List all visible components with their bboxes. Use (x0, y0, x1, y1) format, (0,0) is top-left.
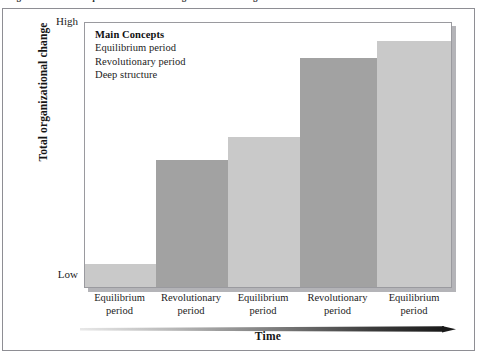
bar-revolutionary-2 (156, 160, 228, 287)
x-axis-label-line: period (299, 305, 376, 318)
x-axis-label-line: period (376, 305, 452, 318)
x-axis-label-5: Equilibriumperiod (376, 292, 452, 318)
x-axis-label-line: period (227, 305, 299, 318)
x-axis-label-line: period (155, 305, 227, 318)
x-axis-title: Time (84, 330, 452, 342)
x-axis-label-1: Equilibriumperiod (84, 292, 155, 318)
x-axis-label-line: period (84, 305, 155, 318)
bar-equilibrium-1 (85, 264, 156, 287)
plot-area: Main Concepts Equilibrium period Revolut… (84, 22, 452, 288)
legend-item-revolutionary: Revolutionary period (95, 55, 186, 68)
x-axis-label-line: Equilibrium (227, 292, 299, 305)
x-axis-label-4: Revolutionaryperiod (299, 292, 376, 318)
x-axis-label-line: Equilibrium (84, 292, 155, 305)
bar-revolutionary-4 (300, 58, 377, 287)
y-axis-tick-high: High (34, 15, 78, 27)
y-axis-tick-low: Low (34, 268, 78, 280)
figure-caption-sliver: Figure Punctuated equilibrium model of o… (0, 0, 479, 6)
x-axis-label-line: Revolutionary (155, 292, 227, 305)
time-arrow-icon (80, 319, 456, 326)
legend-title: Main Concepts (95, 28, 186, 41)
bar-equilibrium-5 (377, 41, 452, 287)
legend: Main Concepts Equilibrium period Revolut… (95, 28, 186, 82)
x-axis-labels: EquilibriumperiodRevolutionaryperiodEqui… (84, 292, 456, 318)
x-axis-label-3: Equilibriumperiod (227, 292, 299, 318)
figure-container: Figure Punctuated equilibrium model of o… (0, 0, 479, 362)
legend-item-equilibrium: Equilibrium period (95, 41, 186, 54)
x-axis-label-line: Equilibrium (376, 292, 452, 305)
plot-shadow-right (452, 26, 456, 292)
x-axis-label-line: Revolutionary (299, 292, 376, 305)
x-axis-label-2: Revolutionaryperiod (155, 292, 227, 318)
legend-item-deep-structure: Deep structure (95, 68, 186, 81)
bar-equilibrium-3 (228, 137, 300, 287)
y-axis-title: Total organizational change (37, 0, 49, 192)
